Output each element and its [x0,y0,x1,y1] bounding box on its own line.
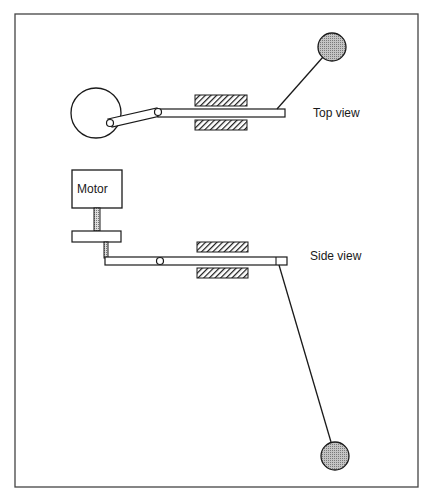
pendulum-arm [279,265,331,442]
slider-rod [158,109,285,117]
side-view-label: Side view [310,249,362,263]
motor-label: Motor [77,182,108,196]
drive-wheel [71,88,121,138]
bearing-lower [197,268,248,278]
mechanism-diagram: Top view Motor Side view [0,0,431,497]
motor-shaft [94,208,100,231]
pendulum-arm [277,57,323,109]
pendulum-ball [318,33,346,61]
side-view: Motor Side view [72,170,362,470]
pendulum-ball [321,442,349,470]
bearing-upper [197,242,248,252]
top-view-label: Top view [313,106,360,120]
crank-pin [107,120,114,127]
top-view: Top view [71,33,360,138]
drive-disc [72,231,121,242]
bearing-lower [195,120,247,130]
slider-rod [105,257,287,265]
bearing-upper [195,95,247,106]
joint-pin [157,258,164,265]
crank-pin-shaft [104,242,108,258]
joint-pin [155,109,162,116]
